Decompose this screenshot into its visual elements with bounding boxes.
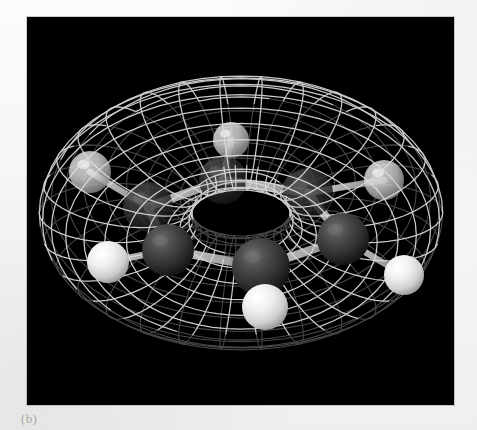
molecular-render-panel: [27, 17, 454, 405]
atom-c6: [142, 224, 194, 276]
figure-root: (b): [0, 0, 477, 430]
atom-c4: [317, 213, 369, 265]
atom-h4: [384, 255, 424, 295]
figure-caption: (b): [21, 411, 37, 425]
atom-h5: [242, 284, 288, 330]
atom-h6: [87, 241, 129, 283]
molecule-isosurface-svg: [27, 17, 454, 405]
